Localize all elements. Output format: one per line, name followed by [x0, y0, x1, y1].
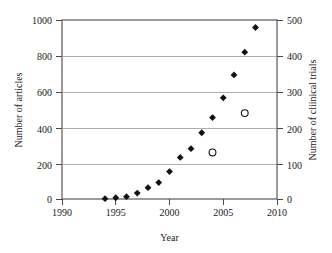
y-left-tick-label-600: 600	[37, 87, 52, 98]
y-axis-right: 500 400 300 200 100 0	[277, 15, 302, 205]
y-axis-left-title: Number of articles	[13, 72, 24, 147]
y-right-tick-label-0: 0	[287, 194, 292, 205]
x-tick-label-1990: 1990	[52, 207, 72, 218]
x-tick-label-2010: 2010	[267, 207, 287, 218]
y-right-tick-label-100: 100	[287, 160, 302, 171]
x-axis-title: Year	[160, 232, 179, 243]
y-left-tick-label-800: 800	[37, 51, 52, 62]
y-right-tick-label-200: 200	[287, 124, 302, 135]
y-right-tick-label-300: 300	[287, 87, 302, 98]
y-right-tick-label-400: 400	[287, 51, 302, 62]
y-left-tick-label-1000: 1000	[32, 15, 52, 26]
y-axis-left: 1000 800 600 400 200 0	[32, 15, 62, 205]
y-left-tick-label-200: 200	[37, 160, 52, 171]
x-axis: 1990 1995 2000 2005 2010	[52, 199, 287, 218]
y-left-tick-label-0: 0	[47, 194, 52, 205]
y-left-tick-label-400: 400	[37, 124, 52, 135]
scatter-plot: 1000 800 600 400 200 0 500 400 300 200 1…	[0, 0, 332, 253]
x-tick-label-1995: 1995	[106, 207, 126, 218]
data-point-clinical-trial	[241, 110, 248, 117]
y-axis-right-title: Number of cliinical trials	[307, 59, 318, 160]
y-right-tick-label-500: 500	[287, 15, 302, 26]
x-tick-label-2000: 2000	[160, 207, 180, 218]
data-point-clinical-trial	[209, 149, 216, 156]
x-tick-label-2005: 2005	[213, 207, 233, 218]
chart-figure: 1000 800 600 400 200 0 500 400 300 200 1…	[0, 0, 332, 253]
